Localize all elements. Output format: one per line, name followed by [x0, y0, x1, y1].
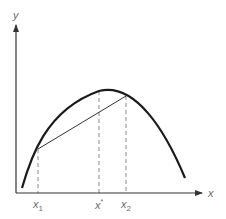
y-axis-label: y	[12, 9, 20, 21]
tick-label-x2: x2	[120, 198, 132, 213]
x-axis-label: x	[207, 187, 214, 199]
concave-function-diagram: y x x1 x* x2	[0, 0, 226, 219]
tick-label-x1: x1	[32, 198, 44, 213]
tick-label-x-star: x*	[94, 198, 104, 211]
concave-curve	[22, 90, 185, 188]
chord-line	[38, 96, 126, 149]
